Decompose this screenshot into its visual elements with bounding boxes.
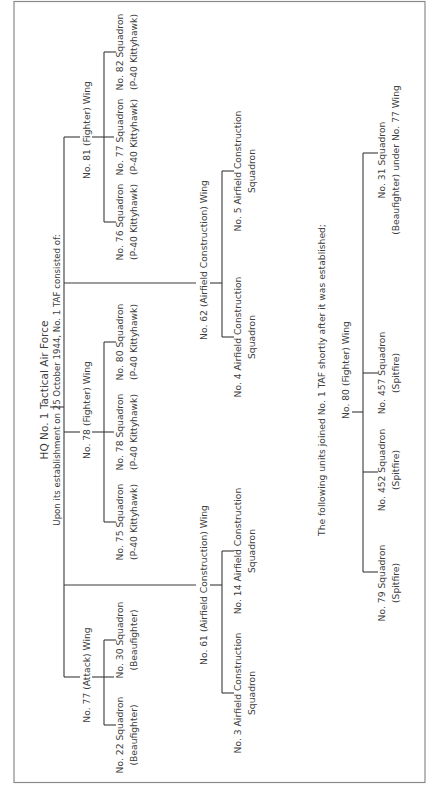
- svg-text:No. 80 Squadron: No. 80 Squadron: [114, 303, 125, 380]
- squadron-77: No. 77 Squadron (P-40 Kittyhawk): [114, 98, 139, 175]
- squadron-31: No. 31 Squadron (Beaufighter) under No. …: [376, 85, 401, 235]
- squadron-30: No. 30 Squadron (Beaufighter): [114, 601, 139, 678]
- squadron-457: No. 457 Squadron (Spitfire): [376, 332, 401, 415]
- svg-text:(P-40 Kittyhawk): (P-40 Kittyhawk): [128, 14, 139, 90]
- airfield-squadron-4: No. 4 Airfield Construction Squadron: [232, 276, 257, 397]
- svg-text:No. 77 Squadron: No. 77 Squadron: [114, 98, 125, 175]
- wing-78-label: No. 78 (Fighter) Wing: [81, 361, 92, 459]
- root-node: HQ No. 1 Tactical Air Force Upon its est…: [38, 234, 62, 525]
- svg-text:(Spitfire): (Spitfire): [390, 353, 401, 393]
- wing-61-label: No. 61 (Airfield Construction) Wing: [198, 505, 209, 665]
- squadron-452: No. 452 Squadron (Spitfire): [376, 429, 401, 512]
- squadron-82: No. 82 Squadron (P-40 Kittyhawk): [114, 13, 139, 90]
- svg-text:No. 31 Squadron: No. 31 Squadron: [376, 121, 387, 198]
- svg-text:(P-40 Kittyhawk): (P-40 Kittyhawk): [128, 394, 139, 470]
- svg-text:No. 4 Airfield Construction: No. 4 Airfield Construction: [232, 276, 243, 397]
- svg-text:Squadron: Squadron: [246, 149, 257, 193]
- svg-text:Squadron: Squadron: [246, 671, 257, 715]
- svg-text:(P-40 Kittyhawk): (P-40 Kittyhawk): [128, 99, 139, 175]
- airfield-squadron-5: No. 5 Airfield Construction Squadron: [232, 110, 257, 231]
- connector-lines: [50, 52, 378, 725]
- wing-80-label: No. 80 (Fighter) Wing: [340, 321, 351, 419]
- squadron-75: No. 75 Squadron (P-40 Kittyhawk): [114, 483, 139, 560]
- svg-text:(P-40 Kittyhawk): (P-40 Kittyhawk): [128, 304, 139, 380]
- wing-81-label: No. 81 (Fighter) Wing: [81, 81, 92, 179]
- svg-text:(Spitfire): (Spitfire): [390, 563, 401, 603]
- svg-text:Squadron: Squadron: [246, 529, 257, 573]
- squadron-76: No. 76 Squadron (P-40 Kittyhawk): [114, 183, 139, 260]
- svg-text:No. 78 Squadron: No. 78 Squadron: [114, 393, 125, 470]
- svg-text:No. 22 Squadron: No. 22 Squadron: [114, 696, 125, 773]
- svg-text:No. 452 Squadron: No. 452 Squadron: [376, 429, 387, 512]
- svg-text:No. 76 Squadron: No. 76 Squadron: [114, 183, 125, 260]
- svg-text:(P-40 Kittyhawk): (P-40 Kittyhawk): [128, 184, 139, 260]
- svg-text:Squadron: Squadron: [246, 315, 257, 359]
- svg-text:No. 457 Squadron: No. 457 Squadron: [376, 332, 387, 415]
- svg-text:(Beaufighter): (Beaufighter): [128, 704, 139, 765]
- svg-text:No. 30 Squadron: No. 30 Squadron: [114, 601, 125, 678]
- svg-text:No. 3 Airfield Construction: No. 3 Airfield Construction: [232, 632, 243, 753]
- svg-text:No. 82 Squadron: No. 82 Squadron: [114, 13, 125, 90]
- svg-text:No. 79 Squadron: No. 79 Squadron: [376, 544, 387, 621]
- svg-text:(Beaufighter) under No. 77 Win: (Beaufighter) under No. 77 Wing: [390, 85, 401, 235]
- squadron-22: No. 22 Squadron (Beaufighter): [114, 696, 139, 773]
- svg-text:(Beaufighter): (Beaufighter): [128, 609, 139, 670]
- svg-text:(Spitfire): (Spitfire): [390, 450, 401, 490]
- squadron-80: No. 80 Squadron (P-40 Kittyhawk): [114, 303, 139, 380]
- squadron-78: No. 78 Squadron (P-40 Kittyhawk): [114, 393, 139, 470]
- svg-text:No. 5 Airfield Construction: No. 5 Airfield Construction: [232, 110, 243, 231]
- airfield-squadron-14: No. 14 Airfield Construction Squadron: [232, 488, 257, 615]
- squadron-79: No. 79 Squadron (Spitfire): [376, 544, 401, 621]
- airfield-squadron-3: No. 3 Airfield Construction Squadron: [232, 632, 257, 753]
- wing-77-label: No. 77 (Attack) Wing: [81, 627, 92, 722]
- root-subtitle: Upon its establishment on 25 October 194…: [52, 234, 62, 525]
- root-title: HQ No. 1 Tactical Air Force: [38, 321, 50, 460]
- org-chart: HQ No. 1 Tactical Air Force Upon its est…: [0, 0, 432, 800]
- later-heading: The following units joined No. 1 TAF sho…: [316, 224, 327, 537]
- svg-text:(P-40 Kittyhawk): (P-40 Kittyhawk): [128, 484, 139, 560]
- wing-62-label: No. 62 (Airfield Construction) Wing: [198, 180, 209, 340]
- svg-text:No. 75 Squadron: No. 75 Squadron: [114, 483, 125, 560]
- svg-text:No. 14 Airfield Construction: No. 14 Airfield Construction: [232, 488, 243, 615]
